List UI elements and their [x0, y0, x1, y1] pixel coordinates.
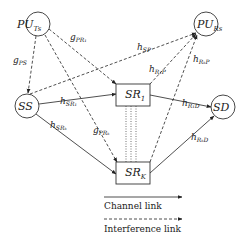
relay-network-diagram: PUTs PURs SS SD SR1 SRK gPS gPR₁ gPRₖ hS… [0, 0, 249, 245]
label-h-r1d: hR₁D [182, 98, 200, 109]
legend-channel-label: Channel link [104, 201, 162, 211]
node-pu-rs: PURs [194, 12, 223, 36]
edge-h-r1d [150, 95, 211, 107]
node-sr-1: SR1 [116, 84, 150, 106]
node-sr-k: SRK [116, 162, 150, 184]
edge-h-rkp [150, 35, 197, 162]
edge-h-rkd [150, 116, 214, 173]
label-h-srk: hSRₖ [50, 120, 67, 131]
svg-text:SD: SD [213, 101, 230, 114]
edge-h-srk [36, 114, 116, 174]
svg-text:SS: SS [18, 100, 33, 113]
label-h-sr1: hSR₁ [60, 96, 77, 107]
node-sd: SD [211, 95, 235, 119]
node-ss: SS [15, 94, 39, 118]
svg-text:PURs: PURs [196, 18, 223, 33]
edge-h-sr1 [39, 94, 116, 104]
node-pu-ts: PUTs [16, 12, 50, 36]
label-g-ps: gPS [13, 55, 27, 66]
label-h-sp: hSP [137, 42, 152, 53]
label-g-pr1: gPR₁ [70, 32, 87, 43]
label-g-prk: gPRₖ [93, 125, 110, 136]
label-h-rkp: hRₖP [193, 54, 211, 65]
label-h-rkd: hRₖD [191, 132, 209, 143]
edge-h-sp [30, 33, 196, 94]
legend: Channel link Interference link [104, 197, 182, 234]
legend-interference-label: Interference link [104, 224, 181, 234]
label-h-r1p: hR₁P [149, 64, 167, 75]
edge-g-ps [28, 36, 36, 93]
